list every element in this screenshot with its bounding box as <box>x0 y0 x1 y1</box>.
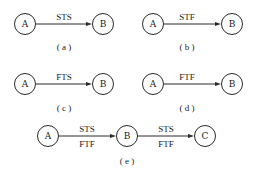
diagram-b: STF A B ( b ) <box>143 12 243 52</box>
edge-a-to-b <box>164 22 221 26</box>
precedence-relationship-diagrams: STS A B ( a ) STF A B ( b ) <box>0 0 257 182</box>
node-b: B <box>222 14 243 35</box>
node-label: A <box>149 19 157 29</box>
node-label: A <box>44 131 52 141</box>
edge-label-above: STS <box>56 12 72 22</box>
arrowhead-icon <box>110 134 116 138</box>
edge-a-to-b <box>36 22 92 26</box>
node-a: A <box>15 74 36 95</box>
node-b: B <box>93 74 114 95</box>
arrowhead-icon <box>86 82 92 86</box>
caption-b: ( b ) <box>180 42 195 52</box>
edge-label-above: FTF <box>179 72 195 82</box>
node-a: A <box>143 74 164 95</box>
arrowhead-icon <box>86 22 92 26</box>
node-a: A <box>143 14 164 35</box>
caption-c: ( c ) <box>57 103 72 113</box>
node-label: A <box>21 19 29 29</box>
edge-a-to-b <box>164 82 221 86</box>
edge-label-above: FTS <box>56 72 72 82</box>
edge-a-to-b <box>59 134 116 138</box>
caption-e: ( e ) <box>120 156 135 166</box>
edge-label-above: STS <box>79 124 95 134</box>
node-label: A <box>149 79 157 89</box>
edge-label-below: FTF <box>79 139 95 149</box>
arrowhead-icon <box>215 82 221 86</box>
node-b: B <box>222 74 243 95</box>
diagram-c: FTS A B ( c ) <box>15 72 114 113</box>
diagram-e: STS FTF STS FTF A B C ( e ) <box>38 124 216 166</box>
node-a: A <box>15 14 36 35</box>
caption-a: ( a ) <box>57 42 72 52</box>
node-b: B <box>117 126 138 147</box>
diagram-a: STS A B ( a ) <box>15 12 114 52</box>
node-label: C <box>202 131 209 141</box>
node-b: B <box>93 14 114 35</box>
edge-label-below: FTF <box>158 139 174 149</box>
edge-b-to-c <box>138 134 194 138</box>
arrowhead-icon <box>188 134 194 138</box>
arrowhead-icon <box>215 22 221 26</box>
edge-label-above: STS <box>158 124 174 134</box>
node-c: C <box>195 126 216 147</box>
caption-d: ( d ) <box>180 103 195 113</box>
node-label: B <box>229 79 236 89</box>
diagram-d: FTF A B ( d ) <box>143 72 243 113</box>
node-label: A <box>21 79 29 89</box>
node-label: B <box>100 79 107 89</box>
node-label: B <box>229 19 236 29</box>
node-a: A <box>38 126 59 147</box>
edge-label-above: STF <box>179 12 195 22</box>
node-label: B <box>100 19 107 29</box>
node-label: B <box>124 131 131 141</box>
edge-a-to-b <box>36 82 92 86</box>
